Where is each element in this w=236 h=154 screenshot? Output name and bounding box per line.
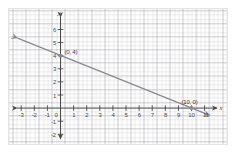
graph-screenshot: -3 -2 -1 1 2 3 4 5 6 7 8 9 10 11 6 5 4 3… <box>0 0 236 154</box>
point-x-intercept <box>190 106 194 110</box>
x-tick-label: -3 <box>19 112 24 118</box>
y-tick-label: 2 <box>53 79 56 85</box>
y-tick-label: 1 <box>53 93 56 99</box>
y-axis-name: y <box>58 10 61 17</box>
x-tick-label: -2 <box>32 112 37 118</box>
x-intercept-annotation: (10, 0) <box>182 99 198 105</box>
x-tick-label: 10 <box>188 112 194 118</box>
y-tick-label: 6 <box>53 27 56 33</box>
y-tick-label: -2 <box>51 132 56 138</box>
x-tick-label: 1 <box>72 112 75 118</box>
x-tick-label: 8 <box>164 112 167 118</box>
y-tick-label: 3 <box>53 66 56 72</box>
x-tick-label: 2 <box>85 112 88 118</box>
x-axis-name: x <box>220 105 223 112</box>
coordinate-plot <box>9 9 228 145</box>
x-tick-label: 4 <box>112 112 115 118</box>
x-tick-label: 5 <box>125 112 128 118</box>
x-tick-label: 3 <box>98 112 101 118</box>
x-tick-label: 7 <box>151 112 154 118</box>
y-tick-label: 4 <box>53 53 56 59</box>
y-tick-label: -1 <box>51 119 56 125</box>
y-axis <box>58 17 64 139</box>
x-tick-label: 11 <box>203 112 209 118</box>
x-tick-label: 6 <box>138 112 141 118</box>
point-y-intercept <box>59 54 63 58</box>
y-intercept-annotation: (0, 4) <box>65 49 78 55</box>
graph-paper-panel: -3 -2 -1 1 2 3 4 5 6 7 8 9 10 11 6 5 4 3… <box>8 8 228 145</box>
x-tick-label: 9 <box>177 112 180 118</box>
x-tick-label: -1 <box>45 112 50 118</box>
y-tick-label: 5 <box>53 40 56 46</box>
origin-label: 0 <box>55 112 58 118</box>
